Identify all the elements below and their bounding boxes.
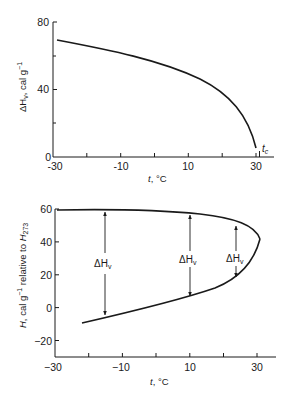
top-x-tick-10: 10: [182, 160, 194, 172]
top-x-axis-label: t, °C: [148, 173, 167, 184]
figure: 80 40 0 -30 -10 10 30 t, °C ΔHv, cal g−1…: [0, 0, 293, 399]
delta-hv-label-3: ΔHv: [226, 253, 244, 265]
top-x-tick-30: 30: [250, 160, 262, 172]
bottom-x-tick-neg10: −10: [112, 361, 130, 373]
bottom-y-tick-0: 0: [46, 302, 52, 314]
bottom-y-tick-40: 40: [40, 236, 52, 248]
delta-hv-arrow-3: ΔHv: [226, 226, 244, 277]
top-axes: [53, 22, 274, 157]
top-y-axis-label: ΔHv, cal g−1: [16, 62, 29, 112]
bottom-y-tick-20: 20: [40, 269, 52, 281]
bottom-x-tick-10: 10: [184, 361, 196, 373]
bottom-chart: 60 40 20 0 −20 −30 −10 10 30 t, °C H, ca…: [16, 203, 276, 387]
bottom-x-tick-30: 30: [251, 361, 263, 373]
delta-hv-arrow-1: ΔHv: [94, 212, 112, 315]
top-x-tick-neg30: -30: [47, 160, 62, 172]
bottom-y-tick-60: 60: [40, 203, 52, 215]
bottom-y-tick-neg20: −20: [34, 335, 52, 347]
bottom-axes: [55, 209, 276, 357]
saturated-liquid-curve: [82, 239, 260, 323]
heat-of-vaporization-curve: [57, 40, 256, 148]
delta-hv-label-1: ΔHv: [94, 258, 112, 270]
top-chart: 80 40 0 -30 -10 10 30 t, °C ΔHv, cal g−1…: [16, 16, 274, 184]
delta-hv-label-2: ΔHv: [179, 254, 197, 266]
bottom-x-axis-label: t, °C: [150, 376, 169, 387]
top-y-tick-40: 40: [37, 83, 49, 95]
bottom-x-tick-neg30: −30: [44, 361, 62, 373]
tc-label: tc: [262, 143, 269, 155]
bottom-y-axis-label: H, cal g−1 relative to H273: [16, 223, 29, 328]
delta-hv-arrow-2: ΔHv: [179, 215, 197, 296]
saturated-vapor-curve: [57, 210, 260, 239]
top-y-tick-80: 80: [37, 16, 49, 28]
top-x-tick-neg10: -10: [113, 160, 128, 172]
